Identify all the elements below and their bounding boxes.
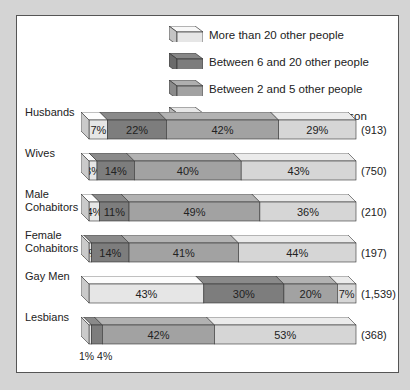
sample-size: (197) [361,247,387,259]
row-label: FemaleCohabitors [25,229,78,255]
legend-label: Between 6 and 20 other people [209,56,369,68]
svg-text:44%: 44% [286,247,308,259]
chart-panel: More than 20 other people Between 6 and … [16,15,399,373]
row-label: MaleCohabitors [25,188,78,214]
svg-text:43%: 43% [135,288,157,300]
sample-size: (210) [361,206,387,218]
sample-size: (1,539) [361,288,396,300]
legend-label: More than 20 other people [209,29,344,41]
sample-size: (750) [361,165,387,177]
svg-text:20%: 20% [300,288,322,300]
legend-label: Between 2 and 5 other people [209,83,362,95]
row-label: Lesbians [25,311,69,324]
svg-text:53%: 53% [274,329,296,341]
svg-text:11%: 11% [104,206,125,218]
svg-text:14%: 14% [105,165,127,177]
stacked-bar: 43%30%20%7% [81,276,360,307]
stacked-bar: 7%22%42%29% [81,112,360,143]
callout-labels: 1% 4% [79,350,112,362]
svg-text:14%: 14% [99,247,121,259]
svg-text:42%: 42% [147,329,169,341]
stacked-bar: 1%14%41%44% [81,235,360,266]
svg-text:49%: 49% [183,206,205,218]
svg-text:42%: 42% [211,124,233,136]
stacked-bar: 4%11%49%36% [81,194,360,225]
svg-text:43%: 43% [288,165,310,177]
svg-text:41%: 41% [173,247,195,259]
svg-text:7%: 7% [90,124,106,136]
svg-text:7%: 7% [339,288,355,300]
svg-text:40%: 40% [177,165,199,177]
legend-item-more20: More than 20 other people [169,26,399,48]
svg-text:36%: 36% [297,206,319,218]
legend-swatch-icon [169,80,203,96]
row-label: Gay Men [25,270,70,283]
stacked-bar: 42%53% [81,317,360,348]
svg-text:29%: 29% [306,124,328,136]
stacked-bar: 3%14%40%43% [81,153,360,184]
row-label: Wives [25,147,55,160]
legend-swatch-icon [169,26,203,42]
svg-text:30%: 30% [233,288,255,300]
sample-size: (368) [361,329,387,341]
legend-swatch-icon [169,53,203,69]
legend-item-b6_20: Between 6 and 20 other people [169,53,399,75]
row-label: Husbands [25,106,75,119]
svg-text:22%: 22% [126,124,148,136]
legend-item-b2_5: Between 2 and 5 other people [169,80,399,102]
sample-size: (913) [361,124,387,136]
